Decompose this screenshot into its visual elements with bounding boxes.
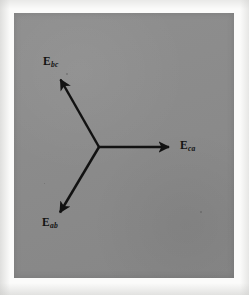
phasor-label-eca: Eca: [180, 140, 195, 152]
phasor-label-ebc-subscript: bc: [51, 60, 58, 69]
phasor-label-eca-main: E: [180, 139, 188, 151]
phasor-label-eab-main: E: [42, 216, 50, 228]
phasor-vectors: [0, 0, 249, 295]
phasor-label-eca-subscript: ca: [188, 144, 195, 153]
phasor-label-ebc: Ebc: [43, 56, 58, 68]
phasor-label-eab-subscript: ab: [50, 221, 58, 230]
phasor-label-ebc-main: E: [43, 55, 51, 67]
vector-arrow-ebc: [61, 80, 100, 148]
page-background: Ebc Eca Eab: [0, 0, 249, 295]
phasor-label-eab: Eab: [42, 217, 58, 229]
vector-arrow-eab: [60, 147, 99, 213]
